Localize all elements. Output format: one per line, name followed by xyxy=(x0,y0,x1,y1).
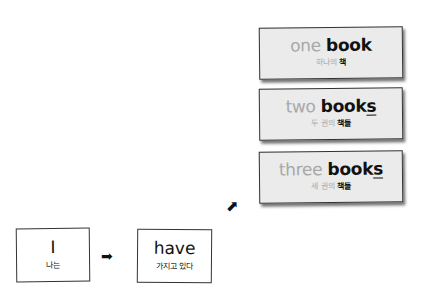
noun-word: books xyxy=(327,158,383,179)
card-one-book: one book 하나의 책 xyxy=(259,26,404,80)
subject-box: I 나는 xyxy=(16,228,91,283)
noun-word: books xyxy=(321,96,377,117)
plural-suffix: s xyxy=(366,96,376,116)
card-two-books: two books 두 권의 책들 xyxy=(259,87,404,141)
card-english: one book xyxy=(260,34,402,55)
number-word-ko: 하나의 xyxy=(316,58,337,67)
subject-english: I xyxy=(17,237,89,258)
number-word-ko: 세 권의 xyxy=(311,182,335,191)
noun-word-ko: 책 xyxy=(339,58,346,67)
number-word-ko: 두 권의 xyxy=(311,119,335,128)
noun-word: book xyxy=(326,35,372,55)
right-arrow-icon: ➡ xyxy=(101,249,113,263)
plural-suffix: s xyxy=(373,158,383,178)
subject-korean: 나는 xyxy=(17,261,89,272)
verb-english: have xyxy=(138,238,211,259)
noun-word-ko: 책들 xyxy=(337,182,351,191)
noun-stem: book xyxy=(327,159,373,179)
card-english: two books xyxy=(260,95,402,116)
number-word: two xyxy=(285,96,315,116)
noun-word-ko: 책들 xyxy=(337,119,351,128)
number-word: one xyxy=(290,35,321,55)
verb-korean: 가지고 있다 xyxy=(138,262,211,273)
verb-box: have 가지고 있다 xyxy=(137,229,212,284)
number-word: three xyxy=(279,159,323,179)
card-english: three books xyxy=(260,158,402,179)
card-three-books: three books 세 권의 책들 xyxy=(259,150,404,204)
card-korean: 두 권의 책들 xyxy=(260,118,402,129)
up-right-arrow-icon: ⬈ xyxy=(226,199,239,213)
noun-stem: book xyxy=(321,96,367,116)
noun-stem: book xyxy=(326,35,372,55)
card-korean: 하나의 책 xyxy=(260,57,402,68)
card-korean: 세 권의 책들 xyxy=(260,181,402,192)
